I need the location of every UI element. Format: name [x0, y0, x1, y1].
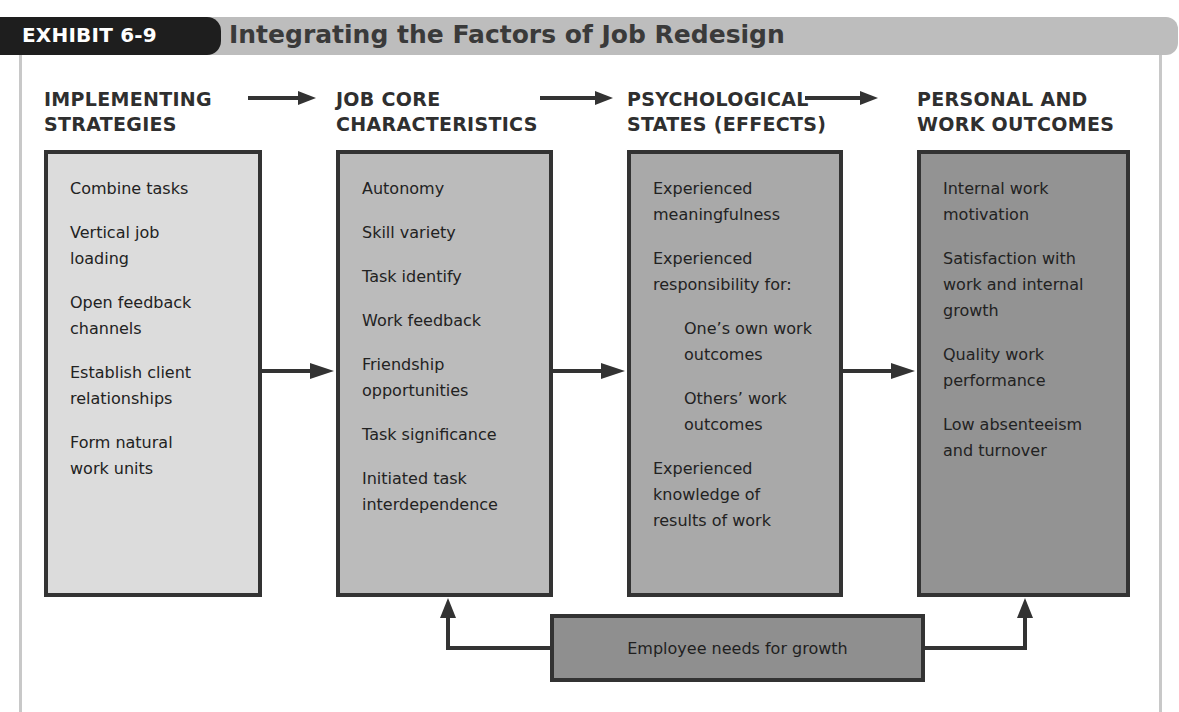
list-item: Combine tasks: [70, 176, 238, 202]
list-item: Low absenteeism and turnover: [943, 412, 1106, 464]
arrow-up-icon: [440, 598, 456, 618]
list-item: Autonomy: [362, 176, 529, 202]
personal-work-outcomes-box: Internal work motivation Satisfaction wi…: [917, 150, 1130, 597]
list-item: Open feedback channels: [70, 290, 238, 342]
list-item: Skill variety: [362, 220, 529, 246]
heading-job-core-characteristics: JOB CORE CHARACTERISTICS: [336, 87, 538, 137]
job-core-characteristics-box: Autonomy Skill variety Task identify Wor…: [336, 150, 553, 597]
arrow-head-icon: [595, 91, 613, 105]
employee-growth-need-box: Employee needs for growth: [550, 614, 925, 682]
list-item: Establish client relationships: [70, 360, 238, 412]
list-item: Form natural work units: [70, 430, 238, 482]
heading-psychological-states: PSYCHOLOGICAL STATES (EFFECTS): [627, 87, 826, 137]
list-item-sub: Others’ work outcomes: [653, 386, 819, 438]
arrow-head-icon: [601, 363, 625, 379]
list-item: Friendship opportunities: [362, 352, 529, 404]
implementing-strategies-box: Combine tasks Vertical job loading Open …: [44, 150, 262, 597]
list-item: Vertical job loading: [70, 220, 238, 272]
arrow-head-icon: [860, 91, 878, 105]
list-item: Initiated task interdependence: [362, 466, 529, 518]
arrow-up-icon: [1017, 598, 1033, 618]
list-item: Quality work performance: [943, 342, 1106, 394]
list-item: Experienced knowledge of results of work: [653, 456, 819, 534]
list-item: Work feedback: [362, 308, 529, 334]
heading-implementing-strategies: IMPLEMENTING STRATEGIES: [44, 87, 212, 137]
arrow-head-icon: [298, 91, 316, 105]
arrow-head-icon: [891, 363, 915, 379]
list-item-sub: One’s own work outcomes: [653, 316, 819, 368]
employee-growth-need-label: Employee needs for growth: [627, 639, 848, 658]
heading-personal-work-outcomes: PERSONAL AND WORK OUTCOMES: [917, 87, 1114, 137]
psychological-states-box: Experienced meaningfulness Experienced r…: [627, 150, 843, 597]
list-item: Task identify: [362, 264, 529, 290]
list-item: Experienced meaningfulness: [653, 176, 819, 228]
right-frame-line: [1159, 55, 1162, 712]
exhibit-label: EXHIBIT 6-9: [22, 23, 157, 47]
list-item: Experienced responsibility for:: [653, 246, 819, 298]
exhibit-badge: EXHIBIT 6-9: [0, 17, 221, 55]
left-frame-line: [19, 55, 22, 712]
list-item: Internal work motivation: [943, 176, 1106, 228]
diagram-title: Integrating the Factors of Job Redesign: [229, 20, 785, 49]
list-item: Task significance: [362, 422, 529, 448]
list-item: Satisfaction with work and internal grow…: [943, 246, 1106, 324]
arrow-head-icon: [310, 363, 334, 379]
